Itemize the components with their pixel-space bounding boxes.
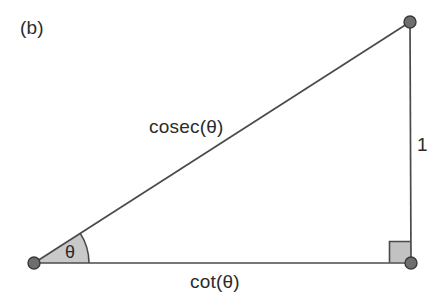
trigonometry-figure-panel-b: (b) cosec(θ) cot(θ) 1 θ <box>0 0 438 293</box>
vertex-dot-left <box>28 257 40 269</box>
triangle-side-hypotenuse <box>34 22 410 263</box>
vertex-dot-bottom-right <box>405 257 417 269</box>
angle-label: θ <box>65 243 75 261</box>
vertex-dot-top-right <box>404 16 416 28</box>
panel-label: (b) <box>20 18 44 37</box>
triangle-side-height <box>410 22 411 263</box>
height-label: 1 <box>417 135 428 154</box>
hypotenuse-label: cosec(θ) <box>149 117 223 136</box>
base-label: cot(θ) <box>190 272 240 291</box>
